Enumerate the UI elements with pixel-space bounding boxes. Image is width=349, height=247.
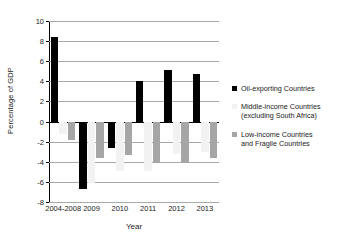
x-axis-title: Year [49, 222, 219, 231]
bar [210, 122, 218, 158]
bar [181, 122, 189, 163]
x-tick-label: 2011 [140, 204, 156, 213]
bar [136, 81, 144, 121]
x-tick-labels: 2004-200820092010201120122013 [49, 204, 219, 218]
y-axis-title: Percentage of GDP [2, 0, 18, 200]
y-tick-label: 2 [40, 97, 44, 106]
y-axis-title-label: Percentage of GDP [6, 67, 15, 134]
y-tick-label: -4 [37, 157, 44, 166]
legend-entry: Low-income Countriesand Fragile Countrie… [232, 130, 348, 148]
y-tick-label: -2 [37, 137, 44, 146]
x-tick-label: 2010 [111, 204, 128, 213]
bar [125, 122, 133, 155]
y-tick-label: 0 [40, 117, 44, 126]
x-tick-label: 2012 [168, 204, 185, 213]
chart-legend: Oil-exporting CountriesMiddle-income Cou… [232, 84, 348, 157]
legend-swatch-icon [232, 86, 237, 91]
bar [79, 122, 87, 189]
bar [153, 122, 161, 163]
bar [51, 37, 59, 121]
x-tick-label: 2009 [83, 204, 100, 213]
bar [201, 122, 209, 152]
plot-area: 1086420-2-4-6-8 [49, 21, 219, 202]
legend-entry: Oil-exporting Countries [232, 84, 348, 93]
bar [88, 122, 96, 183]
bar [193, 74, 201, 121]
legend-label: (excluding South Africa) [241, 111, 348, 120]
y-tick-label: -8 [37, 198, 44, 207]
y-tick-label: 6 [40, 57, 44, 66]
y-tick-label: 10 [36, 17, 44, 26]
bar [96, 122, 104, 158]
y-tick-mark [46, 202, 49, 203]
legend-swatch-icon [232, 104, 237, 109]
bars-layer [49, 21, 219, 202]
x-tick-label: 2013 [196, 204, 213, 213]
bar-chart: Percentage of GDP 1086420-2-4-6-8 2004-2… [0, 0, 349, 247]
legend-entry: Middle-income Countries(excluding South … [232, 102, 348, 120]
y-tick-label: -6 [37, 177, 44, 186]
y-tick-label: 8 [40, 37, 44, 46]
gridline [49, 202, 219, 203]
legend-label: Oil-exporting Countries [241, 84, 348, 93]
legend-label: Middle-income Countries [241, 102, 348, 111]
x-axis-title-label: Year [126, 222, 142, 231]
bar [59, 122, 67, 134]
y-tick-label: 4 [40, 77, 44, 86]
bar [108, 122, 116, 148]
bar [116, 122, 124, 171]
bar [164, 70, 172, 121]
legend-label: and Fragile Countries [241, 139, 348, 148]
bar [68, 122, 76, 140]
x-tick-label: 2004-2008 [45, 204, 81, 213]
bar [173, 122, 181, 154]
bar [144, 122, 152, 171]
legend-swatch-icon [232, 132, 237, 137]
legend-label: Low-income Countries [241, 130, 348, 139]
